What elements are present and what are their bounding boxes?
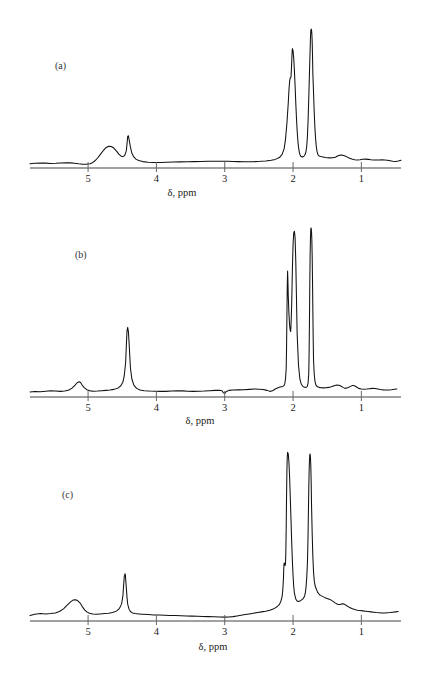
x-axis-ticks-b: 54321 (85, 391, 364, 413)
spectrum-panel-a: 54321 (a) δ, ppm (0, 0, 433, 225)
panel-label-c: (c) (62, 489, 73, 501)
x-axis-ticks-a: 54321 (85, 162, 364, 184)
spectrum-panel-b: 54321 (b) δ, ppm (0, 225, 433, 450)
spectrum-trace-c (30, 452, 398, 617)
panel-label-b: (b) (75, 249, 87, 261)
panel-a-trace-group (30, 29, 401, 164)
nmr-spectra-figure: 54321 (a) δ, ppm 54321 (b) δ, ppm 54321 … (0, 0, 433, 676)
x-axis-ticks-c: 54321 (85, 615, 364, 637)
x-axis-tick-label: 4 (154, 173, 160, 184)
x-axis-tick-label: 1 (359, 626, 364, 637)
x-axis-tick-label: 2 (290, 626, 295, 637)
x-axis-tick-label: 2 (290, 402, 295, 413)
x-axis-title-c: δ, ppm (199, 641, 228, 652)
spectrum-trace-a (30, 29, 401, 164)
x-axis-tick-label: 1 (359, 173, 364, 184)
x-axis-title-b: δ, ppm (186, 415, 215, 426)
x-axis-tick-label: 1 (359, 402, 364, 413)
panel-label-a: (a) (55, 60, 66, 72)
x-axis-tick-label: 2 (290, 173, 295, 184)
panel-b-plot: 54321 (b) δ, ppm (0, 225, 433, 450)
x-axis-tick-label: 5 (85, 626, 90, 637)
x-axis-tick-label: 3 (222, 626, 227, 637)
panel-c-trace-group (30, 452, 398, 617)
x-axis-tick-label: 3 (222, 402, 227, 413)
x-axis-tick-label: 4 (154, 402, 160, 413)
panel-c-plot: 54321 (c) δ, ppm (0, 450, 433, 676)
x-axis-tick-label: 5 (85, 402, 90, 413)
x-axis-tick-label: 4 (154, 626, 160, 637)
x-axis-tick-label: 3 (222, 173, 227, 184)
panel-a-plot: 54321 (a) δ, ppm (0, 0, 433, 225)
x-axis-title-a: δ, ppm (168, 187, 197, 198)
spectrum-panel-c: 54321 (c) δ, ppm (0, 450, 433, 676)
x-axis-tick-label: 5 (85, 173, 90, 184)
